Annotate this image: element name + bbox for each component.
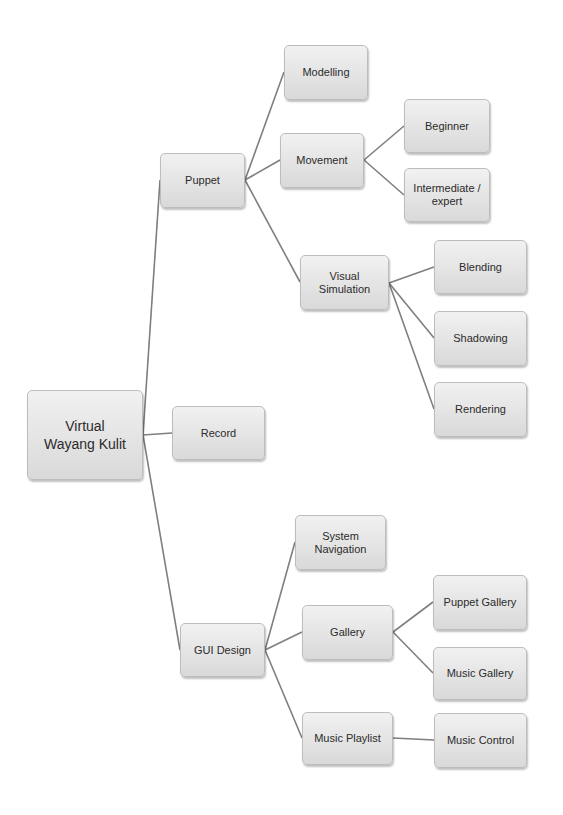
edge-gui-gallery [265,632,302,650]
node-music-playlist: Music Playlist [302,712,393,765]
node-label: Music Control [447,734,514,747]
node-label: Record [201,427,236,440]
edge-gallery-puppet-gallery [393,602,433,632]
node-label: System Navigation [299,530,382,556]
node-rendering: Rendering [434,382,527,437]
node-music-gallery: Music Gallery [433,647,527,700]
node-label: Blending [459,261,502,274]
node-music-control: Music Control [434,713,527,768]
edge-gui-system-navigation [265,542,295,650]
edge-puppet-movement [245,160,280,180]
edge-puppet-modelling [245,72,284,180]
node-label: Gallery [330,626,365,639]
node-label: Intermediate / expert [408,182,486,208]
edge-visual-rendering [389,283,434,409]
edge-gui-music-playlist [265,650,302,738]
node-label-line-2: Wayang Kulit [44,435,126,453]
node-modelling: Modelling [284,45,368,100]
hierarchy-diagram: Virtual Wayang Kulit Puppet Record GUI D… [0,0,563,815]
node-label: Rendering [455,403,506,416]
edge-movement-beginner [364,126,404,160]
node-virtual-wayang-kulit: Virtual Wayang Kulit [27,390,143,480]
node-shadowing: Shadowing [434,311,527,366]
node-blending: Blending [434,240,527,294]
node-puppet-gallery: Puppet Gallery [433,575,527,630]
edge-visual-shadowing [389,283,434,338]
node-label-line-1: Virtual [65,417,104,435]
node-label: Puppet [185,174,220,187]
edge-root-puppet [143,180,160,435]
node-label: Modelling [302,66,349,79]
node-gui-design: GUI Design [180,623,265,677]
edge-movement-intermediate [364,160,404,195]
node-intermediate-expert: Intermediate / expert [404,168,490,222]
node-label: Beginner [425,120,469,133]
edge-root-record [143,433,172,435]
node-label: Puppet Gallery [444,596,517,609]
node-label: Visual Simulation [304,270,385,296]
node-label: Movement [296,154,347,167]
node-movement: Movement [280,133,364,188]
node-record: Record [172,406,265,460]
edge-playlist-music-control [393,738,434,740]
node-puppet: Puppet [160,153,245,208]
node-label: Music Gallery [447,667,514,680]
node-visual-simulation: Visual Simulation [300,255,389,310]
node-label: GUI Design [194,644,251,657]
node-gallery: Gallery [302,605,393,660]
edge-puppet-visual-simulation [245,180,300,282]
edge-visual-blending [389,267,434,283]
node-beginner: Beginner [404,99,490,153]
edge-gallery-music-gallery [393,632,433,673]
node-label: Shadowing [453,332,507,345]
node-label: Music Playlist [314,732,381,745]
edge-root-gui-design [143,435,180,650]
node-system-navigation: System Navigation [295,515,386,570]
